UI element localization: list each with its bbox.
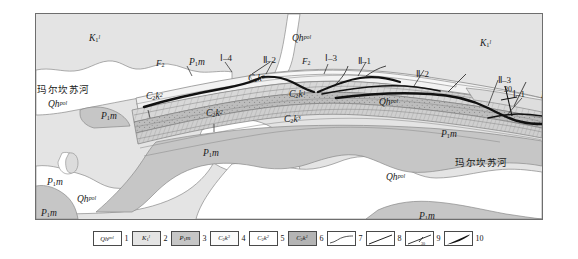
legend-number-8: 8	[398, 234, 402, 243]
geologic-boundary-icon	[327, 231, 356, 246]
legend-number-3: 3	[203, 234, 207, 243]
legend-item-4: C2k3 4	[210, 231, 246, 246]
map-label-qh-left: Qhpol	[48, 100, 67, 110]
legend-swatch-c2k3: C2k3	[210, 231, 239, 246]
map-label-dip-30: 30	[504, 86, 512, 94]
legend-swatch-c2k2: C2k2	[249, 231, 278, 246]
map-label-p1m-f: P1m	[419, 212, 435, 220]
map-label-p1m-b: P1m	[203, 149, 219, 159]
legend-item-1: Qhpol 1	[93, 231, 129, 246]
legend-swatch-c2k1: C2k1	[288, 231, 317, 246]
figure-root: K1l K1l Qhpol Qhpol Qhpol Qhpol Qhpol P1…	[0, 0, 578, 259]
legend-item-8: 8	[366, 231, 402, 246]
map-label-qh-mid: Qhpol	[379, 98, 398, 108]
map-label-ii-1: Ⅱ–1	[358, 57, 371, 66]
map-label-c2k1-a: C2k1	[289, 90, 306, 100]
map-label-c2k2-a: C2k2	[146, 92, 163, 102]
legend-item-9: 30 9	[405, 231, 441, 246]
legend-number-6: 6	[320, 234, 324, 243]
map-label-p1m-h: P1m	[541, 91, 543, 101]
map-label-qh-top: Qhpol	[292, 34, 311, 44]
map-label-river-left: 玛尔坎苏河	[37, 85, 90, 95]
legend-swatch-p1m: P1m	[171, 231, 200, 246]
legend-item-7: 7	[327, 231, 363, 246]
legend-item-10: 10	[444, 231, 484, 246]
map-label-p1m-a: P1m	[101, 112, 117, 122]
map-label-i-3: Ⅰ–3	[325, 54, 337, 63]
map-label-ii-2b: Ⅱ–2	[416, 70, 429, 79]
thrust-fault-icon	[444, 231, 473, 246]
map-label-f2-left: F2	[156, 59, 164, 69]
map-label-f2-right: F2	[302, 57, 310, 67]
map-label-c2k3-b: C2k3	[284, 115, 301, 125]
svg-text:30: 30	[421, 241, 425, 246]
legend-number-4: 4	[242, 234, 246, 243]
legend-item-2: K1l 2	[132, 231, 168, 246]
legend-swatch-k1l: K1l	[132, 231, 161, 246]
map-label-c2k2-b: C2k2	[206, 109, 223, 119]
bedding-attitude-icon: 30	[405, 231, 434, 246]
legend-number-1: 1	[125, 234, 129, 243]
map-label-p1m-c: P1m	[441, 130, 457, 140]
map-label-river-right: 玛尔坎苏河	[455, 158, 508, 168]
legend-item-6: C2k1 6	[288, 231, 324, 246]
legend-number-2: 2	[164, 234, 168, 243]
legend-item-5: C2k2 5	[249, 231, 285, 246]
map-label-p1m-d: P1m	[47, 178, 63, 188]
legend-number-10: 10	[476, 234, 484, 243]
legend-number-7: 7	[359, 234, 363, 243]
legend-number-5: 5	[281, 234, 285, 243]
legend-swatch-qh: Qhpol	[93, 231, 122, 246]
geological-map-frame: K1l K1l Qhpol Qhpol Qhpol Qhpol Qhpol P1…	[35, 13, 543, 220]
map-label-qh-lowerleft: Qhpol	[77, 195, 96, 205]
legend-item-3: P1m 3	[171, 231, 207, 246]
map-label-p1m-g: P1m	[189, 58, 205, 68]
legend-number-9: 9	[437, 234, 441, 243]
map-label-ii-2a: Ⅱ–2	[263, 56, 276, 65]
map-label-i-1: Ⅰ–1	[513, 90, 525, 99]
unit-qh-sliver	[66, 153, 78, 173]
map-label-k1l-left: K1l	[89, 34, 100, 44]
map-label-c2k3-a: C2k3	[248, 74, 265, 84]
map-legend: Qhpol 1 K1l 2 P1m 3 C2k3 4 C2k2 5 C2k1	[35, 228, 541, 248]
map-label-ii-3: Ⅱ–3	[498, 76, 511, 85]
map-label-p1m-e: P1m	[41, 209, 57, 219]
map-label-qh-center: Qhpol	[386, 173, 405, 183]
map-label-i-4: Ⅰ–4	[220, 54, 232, 63]
fault-line-icon	[366, 231, 395, 246]
map-label-k1l-right: K1l	[480, 39, 491, 49]
